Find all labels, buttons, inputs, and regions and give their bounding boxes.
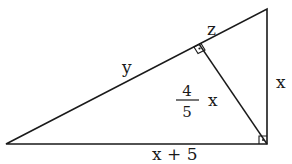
outer-triangle: [6, 9, 267, 144]
triangle-diagram: y z x x + 5 4 5 x: [0, 0, 292, 164]
label-y: y: [121, 57, 132, 77]
label-base: x + 5: [152, 144, 197, 164]
altitude-variable: x: [208, 90, 218, 110]
right-angle-dot-foot: [198, 47, 200, 49]
label-z: z: [207, 19, 216, 39]
altitude-denominator: 5: [182, 103, 192, 121]
altitude-numerator: 4: [182, 82, 192, 100]
label-x-leg: x: [276, 72, 286, 92]
right-angle-dot-bottom: [262, 139, 264, 141]
